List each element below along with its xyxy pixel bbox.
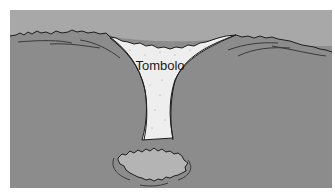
- tombolo-diagram: Tombolo: [10, 10, 332, 188]
- tombolo-label: Tombolo: [135, 58, 184, 73]
- tombolo-illustration: Tombolo: [10, 10, 332, 188]
